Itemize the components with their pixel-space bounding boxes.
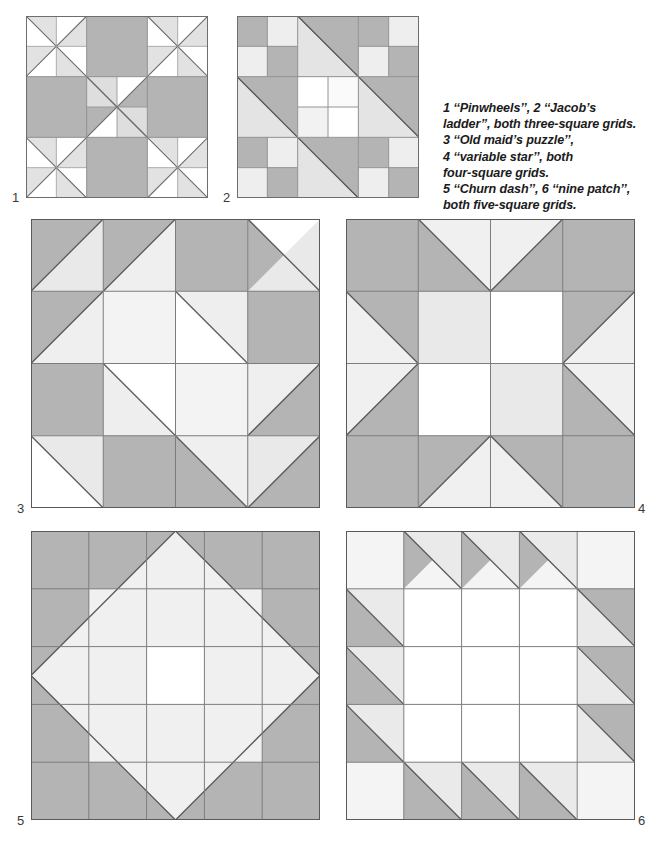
quilt-block-6-svg [346, 531, 635, 820]
quilt-block-6-number: 6 [638, 814, 645, 827]
caption-line-7: both five-square grids. [443, 197, 663, 213]
quilt-block-5-number: 5 [17, 814, 24, 827]
quilt-block-3-number: 3 [17, 502, 24, 515]
caption-line-4: 4 ‘‘variable star’’, both [443, 149, 663, 165]
figure-caption: 1 ‘‘Pinwheels’’, 2 ‘‘Jacob’s ladder’’, b… [443, 100, 663, 214]
quilt-block-2: 2 [237, 16, 419, 198]
quilt-block-3-svg [31, 219, 320, 508]
quilt-block-6: 6 [346, 531, 635, 820]
quilt-block-4: 4 [346, 219, 635, 508]
quilt-pattern-page: 1 [0, 0, 665, 860]
caption-line-1: 1 ‘‘Pinwheels’’, 2 ‘‘Jacob’s [443, 100, 663, 116]
caption-line-6: 5 ‘‘Churn dash’’, 6 ‘‘nine patch’’, [443, 181, 663, 197]
caption-line-3: 3 ‘‘Old maid’s puzzle’’, [443, 132, 663, 148]
caption-line-2: ladder’’, both three-square grids. [443, 116, 663, 132]
quilt-block-1-number: 1 [12, 191, 19, 204]
quilt-block-2-svg [237, 16, 419, 198]
quilt-block-1: 1 [26, 16, 208, 198]
quilt-block-5-svg [31, 531, 320, 820]
quilt-block-1-svg [26, 16, 208, 198]
quilt-block-2-number: 2 [223, 191, 230, 204]
quilt-block-5: 5 [31, 531, 320, 820]
caption-line-5: four-square grids. [443, 165, 663, 181]
quilt-block-4-svg [346, 219, 635, 508]
quilt-block-3: 3 [31, 219, 320, 508]
quilt-block-4-number: 4 [638, 502, 645, 515]
